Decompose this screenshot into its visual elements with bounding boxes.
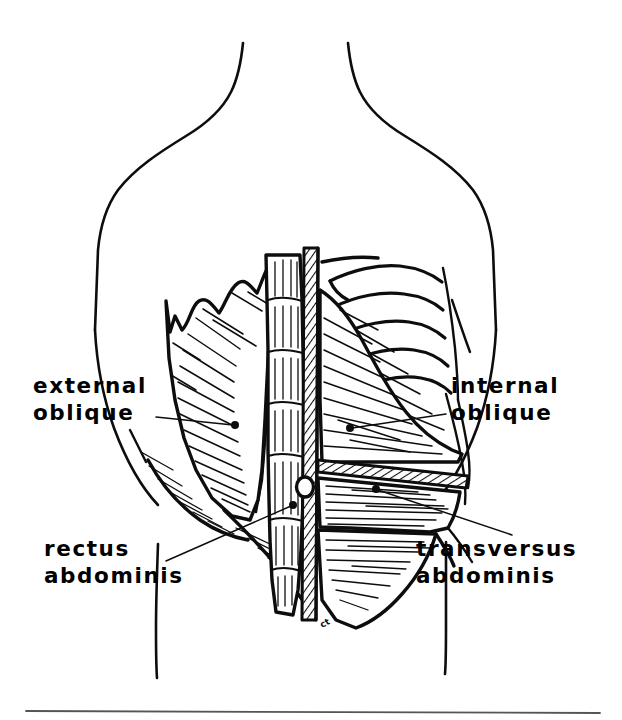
leader-dot-rectus-abdominis <box>289 501 297 509</box>
label-external-oblique-line1: external <box>33 373 147 398</box>
leader-dot-transversus-abdominis <box>372 485 380 493</box>
label-transversus-abdominis-line2: abdominis <box>416 563 556 588</box>
umbilicus <box>297 477 314 497</box>
linea-alba <box>302 248 318 620</box>
leader-dot-internal-oblique <box>346 424 354 432</box>
anatomy-diagram-canvas: ct external oblique internal oblique rec… <box>0 0 622 720</box>
label-rectus-abdominis-line2: abdominis <box>44 563 184 588</box>
label-internal-oblique-line1: internal <box>451 373 559 398</box>
label-internal-oblique-line2: oblique <box>451 400 552 425</box>
leader-dot-external-oblique <box>231 421 239 429</box>
label-rectus-abdominis-line1: rectus <box>44 536 130 561</box>
label-external-oblique-line2: oblique <box>33 400 134 425</box>
rectus-abdominis-muscle <box>266 255 304 615</box>
anatomy-figure: ct external oblique internal oblique rec… <box>0 0 622 720</box>
label-transversus-abdominis-line1: transversus <box>416 536 577 561</box>
